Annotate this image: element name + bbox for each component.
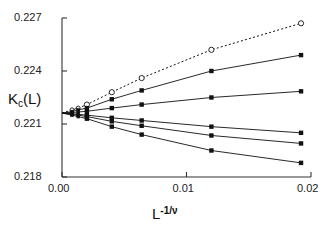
series-line [62,55,301,113]
data-point-marker [299,89,303,93]
series-6-solid-filled-square [62,113,303,165]
chart-plot-area [0,0,332,231]
series-5-solid-filled-square [62,113,303,146]
data-point-marker [110,124,114,128]
series-line [62,23,301,113]
data-point-marker [299,131,303,135]
y-tick-label-2: 0.221 [14,117,42,129]
data-point-marker [139,75,144,80]
x-tick-label-2: 0.02 [297,182,318,194]
series-1-dashed-open-circles [62,21,304,113]
axis-frame [62,18,311,177]
data-point-marker [209,148,213,152]
y-axis-ticks [62,18,67,177]
y-axis-title: Kc(L) [8,90,41,109]
data-point-marker [139,124,143,128]
data-series-layer [62,21,304,165]
data-point-marker [209,47,214,52]
y-tick-label-3: 0.218 [14,170,42,182]
data-point-marker [209,133,213,137]
data-point-marker [209,124,213,128]
y-tick-label-1: 0.224 [14,64,42,76]
data-point-marker [110,97,114,101]
series-line [62,113,301,133]
series-line [62,113,301,143]
data-point-marker [85,117,89,121]
data-point-marker [209,95,213,99]
figure-container: Kc(L) L-1/ν 0.2270.2240.2210.218 0.000.0… [0,0,332,231]
data-point-marker [110,106,114,110]
data-point-marker [139,132,143,136]
data-point-marker [209,69,213,73]
series-3-solid-filled-square [62,89,303,114]
data-point-marker [139,118,143,122]
y-axis-title-tail: (L) [23,90,41,107]
data-point-marker [299,161,303,165]
x-axis-title: L-1/ν [152,205,178,222]
data-point-marker [70,113,73,116]
x-tick-label-0: 0.00 [48,182,69,194]
data-point-marker [299,53,303,57]
data-point-marker [298,21,303,26]
data-point-marker [76,115,79,118]
x-axis-ticks [62,172,311,177]
data-point-marker [110,119,114,123]
data-point-marker [299,141,303,145]
data-point-marker [139,102,143,106]
data-point-marker [109,90,114,95]
series-line [62,113,301,163]
x-tick-label-1: 0.01 [173,182,194,194]
x-axis-title-superscript: -1/ν [160,205,177,216]
y-tick-label-0: 0.227 [14,11,42,23]
data-point-marker [139,88,143,92]
y-axis-title-main: K [8,90,18,107]
series-line [62,91,301,113]
data-point-marker [85,109,89,113]
